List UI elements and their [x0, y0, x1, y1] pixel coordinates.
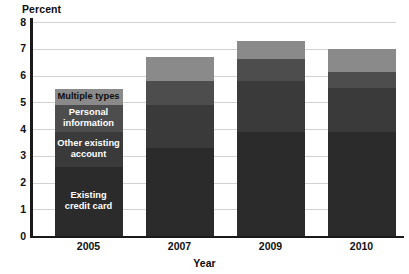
bar-2010[interactable] [328, 49, 396, 236]
bar-segment-existing-credit-card[interactable] [237, 132, 305, 236]
segment-label-line: Existing [55, 190, 123, 201]
bar-segment-other-existing-account[interactable] [328, 88, 396, 132]
y-axis-tick-labels: 012345678 [0, 22, 26, 236]
segment-label-line: Other existing [55, 138, 123, 149]
y-tick-label: 3 [4, 150, 26, 161]
y-tick-label: 8 [4, 17, 26, 28]
legend-label-multiple-types: Multiple types [55, 91, 123, 102]
y-tick-label: 0 [4, 231, 26, 242]
bar-segment-multiple-types[interactable]: Multiple types [55, 89, 123, 105]
bar-segment-personal-information[interactable] [328, 71, 396, 87]
bar-segment-existing-credit-card[interactable] [328, 132, 396, 236]
segment-label-line: account [55, 149, 123, 160]
bar-segment-multiple-types[interactable] [328, 49, 396, 72]
segment-label-line: information [55, 118, 123, 129]
x-tick-label-2005: 2005 [55, 240, 123, 252]
bar-segment-personal-information[interactable] [237, 59, 305, 80]
bar-segment-multiple-types[interactable] [237, 41, 305, 60]
x-axis-title: Year [0, 257, 409, 269]
bar-segment-other-existing-account[interactable] [237, 81, 305, 132]
legend-label-existing-credit-card: Existingcredit card [55, 190, 123, 212]
y-tick-label: 7 [4, 43, 26, 54]
y-axis-title: Percent [22, 3, 61, 15]
segment-label-line: credit card [55, 201, 123, 212]
bar-2005[interactable]: Existingcredit cardOther existingaccount… [55, 89, 123, 236]
y-tick-label: 4 [4, 124, 26, 135]
y-tick-label: 5 [4, 97, 26, 108]
y-axis-line [30, 18, 33, 236]
bar-segment-existing-credit-card[interactable]: Existingcredit card [55, 167, 123, 237]
y-tick-label: 2 [4, 177, 26, 188]
legend-label-other-existing-account: Other existingaccount [55, 138, 123, 160]
bar-segment-personal-information[interactable]: Personalinformation [55, 105, 123, 132]
bar-segment-other-existing-account[interactable]: Other existingaccount [55, 132, 123, 167]
y-tick-label: 6 [4, 70, 26, 81]
x-axis-line [30, 236, 404, 238]
x-tick-label-2010: 2010 [328, 240, 396, 252]
segment-label-line: Personal [55, 107, 123, 118]
bar-segment-existing-credit-card[interactable] [146, 148, 214, 236]
bar-segment-multiple-types[interactable] [146, 57, 214, 81]
gridline [32, 22, 396, 23]
plot-area: Existingcredit cardOther existingaccount… [32, 22, 396, 236]
bar-segment-personal-information[interactable] [146, 81, 214, 105]
bar-2009[interactable] [237, 41, 305, 236]
x-tick-label-2007: 2007 [146, 240, 214, 252]
bar-segment-other-existing-account[interactable] [146, 105, 214, 148]
stacked-bar-chart: Percent 012345678 Existingcredit cardOth… [0, 0, 409, 274]
legend-label-personal-information: Personalinformation [55, 107, 123, 129]
y-tick-label: 1 [4, 204, 26, 215]
segment-label-line: Multiple types [55, 91, 123, 102]
bar-2007[interactable] [146, 57, 214, 236]
x-tick-label-2009: 2009 [237, 240, 305, 252]
